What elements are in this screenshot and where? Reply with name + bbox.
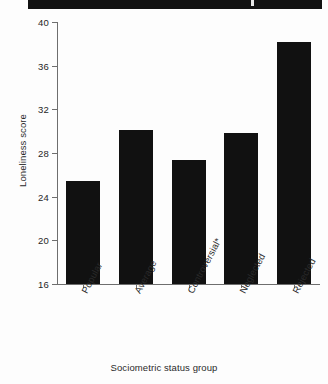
y-tick-mark bbox=[52, 22, 57, 23]
y-tick-mark bbox=[52, 284, 57, 285]
y-tick-mark bbox=[52, 153, 57, 154]
y-axis-title: Loneliness score bbox=[17, 91, 28, 211]
y-tick-label: 32 bbox=[38, 104, 49, 115]
y-tick-label: 24 bbox=[38, 191, 49, 202]
y-tick-label: 40 bbox=[38, 17, 49, 28]
y-tick-label: 36 bbox=[38, 60, 49, 71]
x-axis-title: Sociometric status group bbox=[0, 362, 328, 373]
y-tick-label: 28 bbox=[38, 148, 49, 159]
y-tick-mark bbox=[52, 240, 57, 241]
plot-area: 16202428323640 bbox=[57, 22, 320, 284]
y-axis-line bbox=[57, 22, 58, 284]
y-tick-label: 20 bbox=[38, 235, 49, 246]
y-tick-mark bbox=[52, 197, 57, 198]
y-tick-mark bbox=[52, 109, 57, 110]
bar-rejected bbox=[277, 42, 311, 284]
y-tick-mark bbox=[52, 66, 57, 67]
y-tick-label: 16 bbox=[38, 279, 49, 290]
bar-chart-figure: Loneliness score 16202428323640 PopularA… bbox=[0, 0, 328, 384]
